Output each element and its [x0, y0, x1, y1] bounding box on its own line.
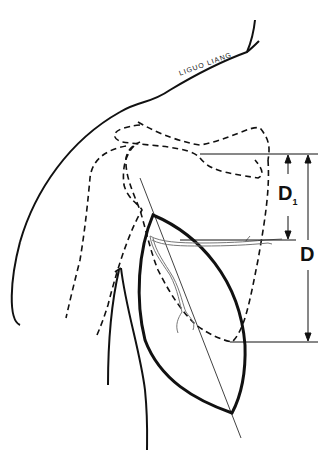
humerus-dashed-outline-right	[97, 146, 142, 335]
humerus-dashed-outline-left	[66, 146, 126, 318]
arm-outer-contour	[12, 242, 20, 325]
dimension-label-d: D	[300, 243, 314, 266]
dimension-label-d1: D1	[278, 182, 297, 207]
acromion-dashed-outline	[115, 125, 262, 178]
shoulder-contour	[20, 20, 255, 242]
vessel-pedicle	[150, 236, 282, 333]
arm-inner-line-right	[121, 268, 147, 450]
diagram-canvas: LIGUO LIANG D1 D	[0, 0, 334, 465]
illustration	[0, 0, 334, 465]
arm-inner-line-left	[108, 270, 119, 385]
